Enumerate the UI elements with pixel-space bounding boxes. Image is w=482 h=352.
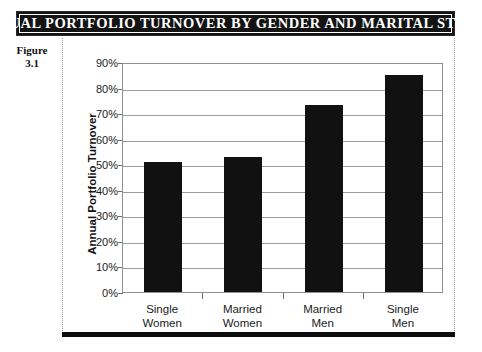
x-tick-label: MarriedMen [283,302,363,330]
x-tick-label-line: Married [283,302,363,316]
bar [385,75,423,292]
y-tick-label: 20% [66,236,118,247]
x-tick-label-line: Women [122,316,202,330]
y-tick-label: 0% [66,288,118,299]
x-tick-label-line: Married [202,302,282,316]
x-tick-label-line: Women [202,316,282,330]
y-tick-label: 10% [66,262,118,273]
figure-number-value: 3.1 [8,57,56,70]
y-tick-label: 50% [66,160,118,171]
x-tick-label: MarriedWomen [202,302,282,330]
figure-title-banner: ANNUAL PORTFOLIO TURNOVER BY GENDER AND … [16,11,455,36]
x-axis-tick-labels: SingleWomenMarriedWomenMarriedMenSingleM… [122,302,443,330]
y-tick-mark [118,293,123,294]
page-title: ANNUAL PORTFOLIO TURNOVER BY GENDER AND … [0,15,482,32]
x-tick-label: SingleWomen [122,302,202,330]
y-tick-label: 90% [66,58,118,69]
x-tick-label-line: Single [363,302,443,316]
bar-chart: Annual Portfolio Turnover 90%80%70%60%50… [62,40,455,330]
bottom-divider-rule [62,332,455,337]
figure-number-label: Figure 3.1 [8,44,56,70]
y-tick-label: 70% [66,109,118,120]
x-axis-separator [283,293,284,299]
y-axis-tick-labels: 90%80%70%60%50%40%30%20%10%0% [62,63,118,293]
x-axis-separator [363,293,364,299]
x-tick-label-line: Men [283,316,363,330]
y-tick-label: 60% [66,134,118,145]
bar [224,157,262,292]
bar [144,162,182,292]
x-axis-separator [202,293,203,299]
plot-area [122,63,443,293]
y-tick-label: 30% [66,211,118,222]
figure-number-word: Figure [8,44,56,57]
x-tick-label: SingleMen [363,302,443,330]
x-tick-label-line: Single [122,302,202,316]
x-tick-label-line: Men [363,316,443,330]
y-tick-label: 80% [66,83,118,94]
bar [305,105,343,292]
y-tick-label: 40% [66,185,118,196]
